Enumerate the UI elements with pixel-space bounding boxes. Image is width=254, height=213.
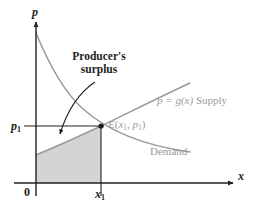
equilibrium-point-dot: [98, 123, 103, 128]
quantity-tick-subscript: 1: [101, 193, 105, 202]
supply-word: Supply: [196, 94, 227, 106]
supply-curve-label: p = g(x) Supply: [157, 95, 227, 106]
producer-surplus-region: [36, 126, 101, 183]
p-axis-label: p: [32, 6, 38, 18]
price-tick-label: p1: [11, 120, 21, 132]
equilibrium-point-label: E(x1, p1): [108, 119, 145, 130]
price-tick-subscript: 1: [17, 125, 21, 134]
equilibrium-p-subscript: 1: [138, 123, 142, 132]
demand-curve-label: Demand: [150, 146, 187, 157]
origin-label: 0: [24, 186, 30, 198]
producer-surplus-line-2: surplus: [61, 63, 137, 76]
equilibrium-e: E: [108, 118, 115, 130]
producer-surplus-figure: p x 0 p1 x1 Producer's surplus p = g(x) …: [0, 0, 254, 213]
producer-surplus-line-1: Producer's: [61, 50, 137, 63]
equilibrium-x-subscript: 1: [123, 123, 127, 132]
equilibrium-paren-close: ): [142, 118, 146, 130]
supply-equation: p = g(x): [157, 94, 193, 106]
producer-surplus-callout: Producer's surplus: [61, 50, 137, 76]
x-axis-label: x: [238, 170, 244, 182]
figure-canvas: [0, 0, 254, 213]
quantity-tick-label: x1: [95, 188, 105, 200]
